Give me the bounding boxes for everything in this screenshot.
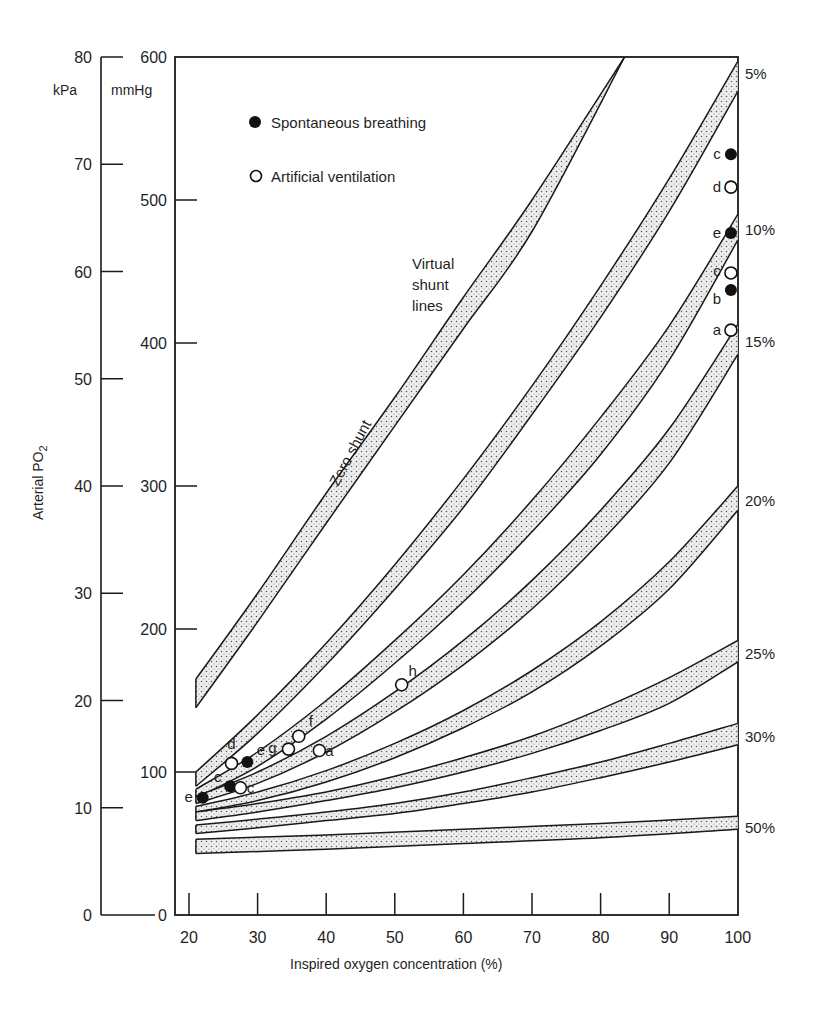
point-label: d: [227, 735, 235, 752]
mmhg-tick-label: 500: [140, 192, 167, 209]
x-axis-title: Inspired oxygen concentration (%): [290, 956, 502, 972]
x-tick-label: 20: [180, 929, 198, 946]
band-label-15pct: 15%: [745, 333, 775, 350]
open-circle-icon: [725, 181, 737, 193]
kpa-tick-label: 80: [74, 49, 92, 66]
legend: Spontaneous breathing Artificial ventila…: [249, 114, 426, 185]
filled-circle-icon: [725, 284, 737, 296]
open-circle-icon: [234, 782, 246, 794]
point-label: d: [713, 178, 721, 195]
x-tick-label: 40: [317, 929, 335, 946]
open-circle-icon: [293, 730, 305, 742]
mmhg-tick-label: 200: [140, 621, 167, 638]
point-label: e: [713, 224, 721, 241]
filled-circle-icon: [197, 792, 209, 804]
open-circle-icon: [251, 171, 262, 182]
open-circle-icon: [226, 757, 238, 769]
point-label: b: [713, 290, 721, 307]
point-label: c: [713, 145, 721, 162]
kpa-tick-label: 0: [83, 907, 92, 924]
shunt-diagram-chart: 01020304050607080 kPa 010020030040050060…: [0, 0, 821, 1011]
mmhg-tick-label: 400: [140, 335, 167, 352]
band-percent-labels: 5%10%15%20%25%30%50%: [745, 65, 775, 836]
kpa-tick-label: 70: [74, 156, 92, 173]
point-label: a: [325, 742, 334, 759]
band-label-20pct: 20%: [745, 492, 775, 509]
virtual-shunt-label-line3: lines: [412, 297, 443, 314]
y-axis-title: Arterial PO2: [30, 445, 49, 520]
kpa-unit-label: kPa: [53, 82, 77, 98]
kpa-tick-label: 60: [74, 264, 92, 281]
mmhg-tick-label: 600: [140, 49, 167, 66]
open-circle-icon: [282, 743, 294, 755]
filled-circle-icon: [249, 116, 261, 128]
band-label-50pct: 50%: [745, 819, 775, 836]
mmhg-tick-label: 100: [140, 764, 167, 781]
kpa-tick-label: 30: [74, 585, 92, 602]
point-label: c: [713, 262, 721, 279]
mmhg-tick-label: 0: [158, 907, 167, 924]
band-label-5pct: 5%: [745, 65, 767, 82]
filled-circle-icon: [725, 148, 737, 160]
x-tick-label: 90: [660, 929, 678, 946]
point-label: h: [408, 662, 416, 679]
legend-artificial: Artificial ventilation: [271, 168, 395, 185]
band-label-30pct: 30%: [745, 728, 775, 745]
open-circle-icon: [313, 745, 325, 757]
x-axis: 2030405060708090100: [180, 893, 751, 946]
point-label: g: [268, 739, 276, 756]
band-label-10pct: 10%: [745, 221, 775, 238]
point-label: c: [214, 768, 222, 785]
open-circle-icon: [725, 267, 737, 279]
kpa-tick-label: 40: [74, 478, 92, 495]
point-label: e: [185, 788, 193, 805]
x-tick-label: 60: [455, 929, 473, 946]
point-label: a: [713, 321, 722, 338]
x-tick-label: 70: [523, 929, 541, 946]
kpa-tick-label: 50: [74, 371, 92, 388]
filled-circle-icon: [241, 756, 253, 768]
x-tick-label: 50: [386, 929, 404, 946]
virtual-shunt-label-line1: Virtual: [412, 255, 454, 272]
band-label-25pct: 25%: [745, 645, 775, 662]
mmhg-unit-label: mmHg: [111, 82, 152, 98]
legend-spontaneous: Spontaneous breathing: [271, 114, 426, 131]
mmhg-tick-label: 300: [140, 478, 167, 495]
x-tick-label: 30: [249, 929, 267, 946]
open-circle-icon: [396, 679, 408, 691]
point-label: e: [257, 741, 265, 758]
virtual-shunt-label-line2: shunt: [412, 276, 450, 293]
filled-circle-icon: [725, 227, 737, 239]
x-tick-label: 100: [724, 929, 751, 946]
band-fill: [196, 57, 625, 708]
open-circle-icon: [725, 324, 737, 336]
band-lower-line: [196, 91, 738, 786]
kpa-tick-label: 10: [74, 800, 92, 817]
kpa-tick-label: 20: [74, 693, 92, 710]
point-label: c: [247, 779, 255, 796]
x-tick-label: 80: [592, 929, 610, 946]
